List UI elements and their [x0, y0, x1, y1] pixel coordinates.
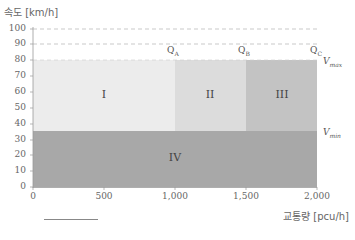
y-tick-label: 50: [4, 102, 26, 112]
qa-label: QA: [167, 45, 179, 57]
footnote-rule: [44, 219, 98, 220]
y-tick-label: 60: [4, 86, 26, 96]
x-tick-label: 2,000: [297, 191, 337, 201]
region-3-label: III: [270, 88, 294, 101]
region-4-label: IV: [163, 151, 187, 164]
y-tick-label: 30: [4, 134, 26, 144]
x-tick-label: 500: [84, 191, 124, 201]
qc-label: QC: [310, 45, 322, 57]
y-tick-label: 20: [4, 149, 26, 159]
y-tick-label: 70: [4, 70, 26, 80]
region-1-label: I: [94, 88, 114, 101]
y-tick-label: 0: [4, 181, 26, 191]
y-tick-label: 80: [4, 54, 26, 64]
y-ticks: [30, 29, 33, 187]
y-tick-label: 90: [4, 38, 26, 48]
region-2-label: II: [200, 88, 220, 101]
x-tick-label: 1,000: [155, 191, 195, 201]
qb-label: QB: [238, 45, 250, 57]
vmax-label: Vmax: [323, 56, 342, 68]
x-tick-label: 0: [13, 191, 53, 201]
y-tick-label: 40: [4, 118, 26, 128]
vmin-label: Vmin: [323, 127, 341, 139]
x-tick-label: 1,500: [226, 191, 266, 201]
y-tick-label: 100: [4, 23, 26, 33]
y-tick-label: 10: [4, 165, 26, 175]
